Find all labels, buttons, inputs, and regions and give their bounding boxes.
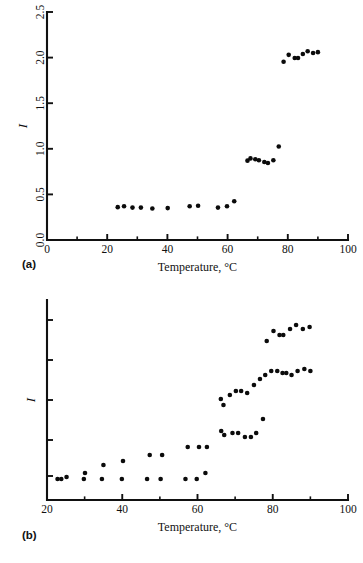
x-tick-label: 80: [282, 243, 294, 255]
data-point: [289, 373, 294, 378]
data-point: [252, 383, 257, 388]
data-point: [225, 204, 230, 209]
data-point: [296, 56, 301, 61]
data-point: [145, 477, 150, 482]
data-point: [196, 204, 201, 209]
data-point: [281, 333, 286, 338]
x-tick-label: 80: [267, 503, 279, 515]
series-lower-branch: [55, 417, 265, 482]
data-point: [248, 156, 253, 161]
data-point: [264, 339, 269, 344]
data-point: [294, 323, 299, 328]
y-tick-label: 2.5: [34, 5, 46, 20]
x-tick-label: 20: [41, 503, 53, 515]
data-point: [160, 453, 165, 458]
x-tick-label: 0: [44, 243, 50, 255]
data-point: [121, 459, 126, 464]
y-tick-label: 1.0: [34, 141, 46, 156]
x-tick-label: 60: [192, 503, 204, 515]
data-point: [147, 453, 152, 458]
data-point: [158, 477, 163, 482]
data-point: [276, 144, 281, 149]
data-point: [232, 199, 237, 204]
panel-b-label: (b): [22, 529, 37, 541]
data-point: [301, 327, 306, 332]
data-point: [258, 377, 263, 382]
data-point: [266, 161, 271, 166]
y-tick-label: 0.5: [34, 187, 46, 202]
data-point: [311, 51, 316, 56]
data-point: [205, 445, 210, 450]
y-axis-title: I: [15, 123, 30, 129]
data-point: [183, 477, 188, 482]
data-point: [185, 445, 190, 450]
data-point: [197, 445, 202, 450]
data-point: [307, 325, 312, 330]
x-tick-label: 100: [339, 503, 357, 515]
data-point: [222, 433, 227, 438]
x-tick-label: 40: [162, 243, 174, 255]
data-point: [271, 158, 276, 163]
data-point: [281, 59, 286, 64]
x-tick-label: 100: [339, 243, 357, 255]
panel-a: 0.00.51.01.52.02.5020406080100Temperatur…: [0, 0, 363, 285]
data-point: [305, 49, 310, 54]
data-point: [120, 477, 125, 482]
data-point: [261, 417, 266, 422]
data-point: [239, 389, 244, 394]
data-point: [234, 389, 239, 394]
data-point: [100, 477, 105, 482]
data-point: [230, 431, 235, 436]
data-point: [284, 371, 289, 376]
data-point: [286, 53, 291, 58]
data-point: [130, 205, 135, 210]
y-tick-label: 1.5: [34, 96, 46, 111]
data-point: [101, 463, 106, 468]
data-point: [254, 431, 259, 436]
panel-b: 20406080100Temperature, °CI: [0, 278, 363, 563]
data-point: [82, 477, 87, 482]
data-point: [122, 204, 127, 209]
data-point: [308, 369, 313, 374]
chart-a-canvas: 0.00.51.01.52.02.5020406080100Temperatur…: [0, 0, 363, 285]
data-point: [295, 369, 300, 374]
x-tick-label: 60: [222, 243, 234, 255]
x-tick-label: 40: [117, 503, 129, 515]
y-axis-title: I: [23, 397, 38, 403]
panel-a-label: (a): [22, 258, 36, 270]
data-point: [83, 471, 88, 476]
data-point: [203, 471, 208, 476]
figure-scatter-plots: 0.00.51.01.52.02.5020406080100Temperatur…: [0, 0, 363, 563]
data-point: [302, 367, 307, 372]
data-point: [249, 435, 254, 440]
data-point: [221, 403, 226, 408]
data-point: [216, 205, 221, 210]
data-point: [219, 429, 224, 434]
data-point: [139, 205, 144, 210]
data-point: [64, 475, 69, 480]
data-point: [269, 369, 274, 374]
data-point: [187, 204, 192, 209]
data-point: [245, 391, 250, 396]
data-point: [165, 206, 170, 211]
x-tick-label: 20: [101, 243, 113, 255]
data-point: [243, 435, 248, 440]
data-point: [59, 477, 64, 482]
series-I: [115, 49, 320, 211]
data-point: [271, 329, 276, 334]
data-point: [275, 369, 280, 374]
data-point: [316, 50, 321, 55]
chart-b-canvas: 20406080100Temperature, °CI: [0, 278, 363, 563]
data-point: [219, 397, 224, 402]
x-axis-title: Temperature, °C: [158, 260, 237, 274]
data-point: [194, 477, 199, 482]
data-point: [263, 373, 268, 378]
data-point: [257, 158, 262, 163]
data-point: [115, 205, 120, 210]
x-axis-title: Temperature, °C: [158, 520, 237, 534]
data-point: [150, 206, 155, 211]
data-point: [301, 52, 306, 57]
series-upper-branch: [219, 323, 313, 408]
y-tick-label: 2.0: [34, 50, 46, 65]
data-point: [236, 431, 241, 436]
